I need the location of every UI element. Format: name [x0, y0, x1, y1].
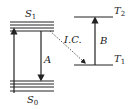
s0-levels	[10, 81, 54, 91]
s1-levels	[10, 22, 54, 31]
ic-label: I.C.	[63, 34, 82, 45]
transition-a-label: A	[43, 54, 51, 65]
t2-label: T2	[114, 5, 125, 18]
s0-label: S0	[27, 94, 38, 107]
energy-level-diagram: S1 S0 A I.C. T2 T1 B	[0, 0, 132, 109]
transition-b-label: B	[99, 35, 107, 46]
s1-label: S1	[25, 8, 36, 21]
t1-label: T1	[114, 53, 125, 66]
